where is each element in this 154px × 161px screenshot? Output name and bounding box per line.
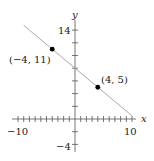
- point-1-label: (−4, 11): [9, 54, 51, 65]
- chart: y x 14 −4 −10 10 (−4, 11) (4, 5): [0, 0, 154, 161]
- x-axis-label: x: [141, 113, 147, 124]
- y-tick-label-max: 14: [58, 25, 71, 36]
- data-point-2: [95, 85, 100, 90]
- point-2-label: (4, 5): [101, 74, 128, 85]
- data-line: [24, 25, 132, 115]
- y-tick-label-min: −4: [56, 141, 71, 152]
- axes: [12, 20, 136, 152]
- x-tick-label-min: −10: [7, 126, 28, 137]
- y-axis-label: y: [71, 9, 78, 20]
- data-point-1: [50, 47, 55, 52]
- x-tick-label-max: 10: [124, 126, 137, 137]
